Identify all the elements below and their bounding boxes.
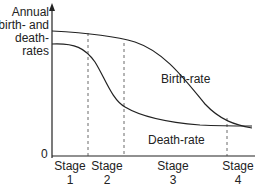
stage-2-label: Stage2 xyxy=(87,159,127,187)
stage-4-label: Stage4 xyxy=(218,159,255,187)
y-axis-label: Annual birth- and death- rates xyxy=(0,6,49,58)
stage-1-label: Stage1 xyxy=(50,159,90,187)
stage-number: 4 xyxy=(218,173,255,187)
stage-text: Stage xyxy=(218,159,255,173)
stage-number: 1 xyxy=(50,173,90,187)
origin-label: 0 xyxy=(41,148,48,161)
stage-text: Stage xyxy=(153,159,193,173)
birth-rate-curve xyxy=(52,31,252,128)
y-label-line: rates xyxy=(0,45,49,58)
stage-text: Stage xyxy=(50,159,90,173)
y-axis-arrow-icon xyxy=(49,3,55,11)
birth-rate-label: Birth-rate xyxy=(161,73,210,86)
stage-number: 3 xyxy=(153,173,193,187)
stage-number: 2 xyxy=(87,173,127,187)
stage-text: Stage xyxy=(87,159,127,173)
stage-3-label: Stage3 xyxy=(153,159,193,187)
death-rate-label: Death-rate xyxy=(148,134,205,147)
death-rate-curve xyxy=(52,44,252,126)
